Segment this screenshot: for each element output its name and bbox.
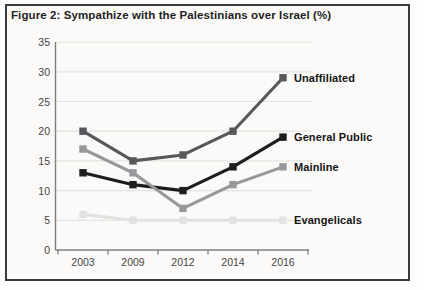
series-label-general-public: General Public [294, 130, 372, 144]
series-label-mainline: Mainline [294, 160, 339, 174]
x-axis-tick-label-2012: 2012 [163, 256, 203, 268]
x-axis-tick-label-2014: 2014 [213, 256, 253, 268]
y-axis-tick-label-10: 10 [20, 185, 50, 197]
x-axis-tick-label-2016: 2016 [263, 256, 303, 268]
y-axis-tick-label-20: 20 [20, 125, 50, 137]
y-axis-tick-label-25: 25 [20, 96, 50, 108]
figure-title: Figure 2: Sympathize with the Palestinia… [11, 9, 331, 21]
y-axis-tick-label-5: 5 [20, 214, 50, 226]
x-axis-tick-label-2009: 2009 [113, 256, 153, 268]
y-axis-tick-label-0: 0 [20, 244, 50, 256]
y-axis-tick-label-15: 15 [20, 155, 50, 167]
x-axis-tick-label-2003: 2003 [63, 256, 103, 268]
series-label-evangelicals: Evangelicals [294, 213, 362, 227]
series-label-unaffiliated: Unaffiliated [294, 71, 355, 85]
y-axis-tick-label-30: 30 [20, 66, 50, 78]
scanned-figure-page: Figure 2: Sympathize with the Palestinia… [0, 0, 424, 290]
y-axis-tick-label-35: 35 [20, 36, 50, 48]
